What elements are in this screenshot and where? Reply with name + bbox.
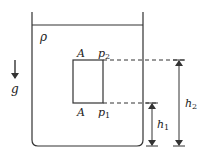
area-top-label: A <box>76 47 85 60</box>
container-vessel <box>32 12 143 146</box>
fluid-element <box>73 60 103 103</box>
density-label: ρ <box>39 30 47 44</box>
pressure-bottom-label: p1 <box>98 106 110 120</box>
area-bottom-label: A <box>76 106 85 119</box>
pressure-top-label: p2 <box>98 47 110 61</box>
h1-label: h1 <box>157 118 169 132</box>
h2-label: h2 <box>185 97 197 111</box>
hydrostatic-diagram: ρ g A p2 A p1 h1 h2 <box>0 0 206 155</box>
gravity-label: g <box>11 82 19 96</box>
